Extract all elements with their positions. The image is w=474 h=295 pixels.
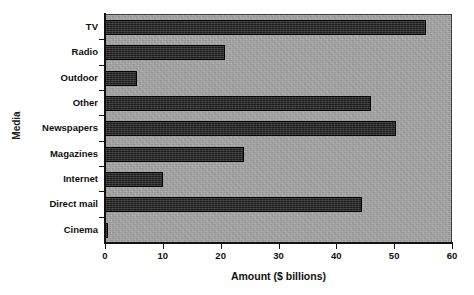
bar[interactable]	[105, 121, 396, 136]
x-axis-tick	[394, 244, 395, 249]
y-axis-tick-label: Outdoor	[20, 65, 102, 90]
bar-row	[105, 142, 452, 167]
x-axis-title: Amount ($ billions)	[105, 270, 452, 282]
bar-row	[105, 167, 452, 192]
bar[interactable]	[105, 96, 371, 111]
y-axis-tick-label: Radio	[20, 39, 102, 64]
y-axis-tick-label: TV	[20, 14, 102, 39]
x-axis-tick-label: 60	[437, 250, 467, 261]
bar-row	[105, 15, 452, 40]
bar-chart: Bar Chart Media TVRadioOutdoorOtherNewsp…	[0, 0, 474, 295]
bar-row	[105, 91, 452, 116]
x-axis-tick	[105, 244, 106, 249]
y-axis-tick	[99, 217, 105, 218]
x-axis-tick	[163, 244, 164, 249]
y-axis-tick	[99, 115, 105, 116]
y-axis-tick	[99, 141, 105, 142]
bar-row	[105, 218, 452, 243]
x-axis-tick-label: 30	[264, 250, 294, 261]
y-axis-tick-label: Newspapers	[20, 115, 102, 140]
x-axis-tick-label: 20	[206, 250, 236, 261]
x-axis-tick-label: 10	[148, 250, 178, 261]
bar-series	[105, 15, 452, 243]
y-axis-tick	[99, 166, 105, 167]
bar[interactable]	[105, 147, 244, 162]
bar[interactable]	[105, 71, 137, 86]
y-axis-line	[104, 13, 106, 243]
bar[interactable]	[105, 172, 163, 187]
bar[interactable]	[105, 197, 362, 212]
plot-area	[105, 14, 452, 242]
y-axis-tick	[99, 65, 105, 66]
chart-title: Bar Chart	[0, 0, 474, 2]
x-axis-tick	[279, 244, 280, 249]
bar[interactable]	[105, 45, 225, 60]
x-axis-tick	[221, 244, 222, 249]
y-axis-tick-label: Magazines	[20, 141, 102, 166]
y-axis-tick	[99, 39, 105, 40]
y-axis-tick-label: Internet	[20, 166, 102, 191]
bar-row	[105, 66, 452, 91]
x-axis-tick-label: 50	[379, 250, 409, 261]
bar-row	[105, 40, 452, 65]
bar[interactable]	[105, 20, 426, 35]
y-axis-tick	[99, 90, 105, 91]
y-axis-tick	[99, 191, 105, 192]
y-axis-category-labels: TVRadioOutdoorOtherNewspapersMagazinesIn…	[20, 14, 102, 242]
x-axis-tick-label: 0	[90, 250, 120, 261]
bar-row	[105, 116, 452, 141]
x-axis-tick	[336, 244, 337, 249]
y-axis-tick-label: Other	[20, 90, 102, 115]
x-axis-tick-label: 40	[321, 250, 351, 261]
x-axis-tick	[452, 244, 453, 249]
y-axis-tick-label: Direct mail	[20, 191, 102, 216]
bar-row	[105, 192, 452, 217]
y-axis-tick-label: Cinema	[20, 217, 102, 242]
